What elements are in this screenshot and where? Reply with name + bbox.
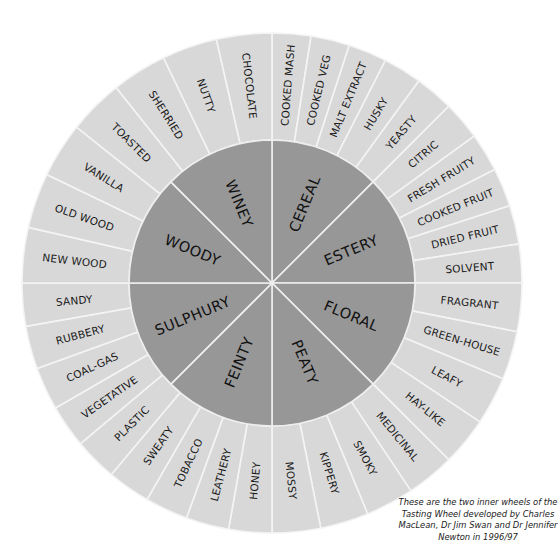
inner-ring bbox=[129, 140, 415, 426]
tasting-wheel: COOKED MASHCOOKED VEGMALT EXTRACTHUSKYYE… bbox=[0, 0, 559, 558]
caption: These are the two inner wheels of the Ta… bbox=[398, 497, 558, 543]
